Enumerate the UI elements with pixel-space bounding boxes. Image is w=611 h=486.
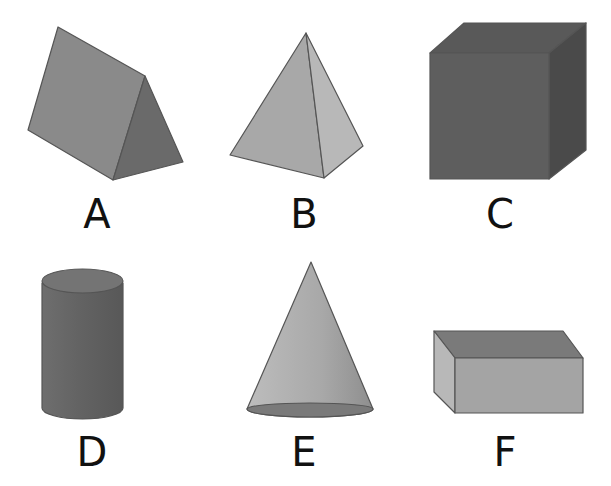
shape-a-triangular-prism — [28, 27, 183, 180]
label-f: F — [493, 429, 516, 475]
label-e: E — [291, 429, 316, 475]
label-a: A — [83, 191, 111, 237]
label-c: C — [486, 191, 514, 237]
shapes-diagram: A B C D E F — [0, 0, 611, 486]
shape-d-cylinder — [42, 269, 123, 419]
shape-f-rectangular-prism — [434, 331, 583, 413]
label-d: D — [77, 429, 108, 475]
shape-c-cube — [430, 23, 586, 179]
shape-b-square-pyramid — [230, 33, 363, 178]
shape-e-cone — [247, 262, 373, 417]
label-b: B — [290, 191, 317, 237]
